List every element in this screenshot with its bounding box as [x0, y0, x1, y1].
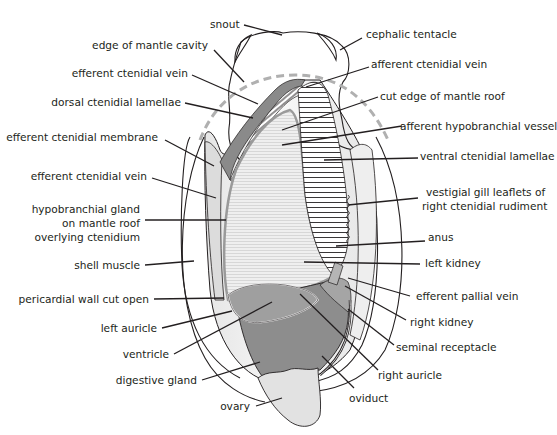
- label-efferent-ctenidial-vein-lower: efferent ctenidial vein: [31, 170, 147, 182]
- label-ventricle: ventricle: [123, 348, 169, 360]
- label-cephalic-tentacle: cephalic tentacle: [366, 28, 457, 40]
- label-afferent-ctenidial-vein: afferent ctenidial vein: [371, 58, 487, 70]
- leader-snout: [244, 25, 282, 35]
- label-afferent-hypobranchial-vessel: afferent hypobranchial vessel: [400, 120, 557, 132]
- label-ventral-ctenidial-lamellae: ventral ctenidial lamellae: [420, 150, 555, 162]
- label-dorsal-ctenidial-lamellae: dorsal ctenidial lamellae: [51, 96, 181, 108]
- label-left-auricle: left auricle: [101, 322, 157, 334]
- gastropod-anatomy-diagram: snout edge of mantle cavity efferent cte…: [0, 0, 557, 435]
- label-seminal-receptacle: seminal receptacle: [396, 341, 496, 353]
- label-shell-muscle: shell muscle: [74, 259, 140, 271]
- ovary-shape: [258, 368, 321, 426]
- right-cephalic-tentacle: [317, 33, 336, 60]
- label-pericardial-wall-cut-open: pericardial wall cut open: [19, 293, 149, 305]
- label-oviduct: oviduct: [349, 392, 388, 404]
- label-left-kidney: left kidney: [425, 257, 481, 269]
- label-edge-of-mantle-cavity: edge of mantle cavity: [92, 39, 208, 51]
- label-anus: anus: [428, 231, 453, 243]
- label-right-kidney: right kidney: [410, 316, 474, 328]
- left-cephalic-tentacle: [235, 35, 251, 62]
- leader-cephalic-tentacle: [340, 38, 362, 50]
- label-hypobranchial-gland-1: hypobranchial gland: [32, 203, 140, 215]
- label-efferent-ctenidial-membrane: efferent ctenidial membrane: [6, 131, 158, 143]
- leader-efferent-ctenidial-vein-upper: [192, 75, 258, 104]
- label-hypobranchial-gland-3: overlying ctenidium: [35, 231, 140, 243]
- label-efferent-ctenidial-vein-upper: efferent ctenidial vein: [72, 67, 188, 79]
- label-efferent-pallial-vein: efferent pallial vein: [416, 290, 519, 302]
- leader-shell-muscle: [145, 261, 194, 265]
- label-snout: snout: [210, 18, 240, 30]
- label-digestive-gland: digestive gland: [116, 374, 197, 386]
- label-ovary: ovary: [220, 400, 250, 412]
- label-vestigial-gill-leaflets-1: vestigial gill leaflets of: [426, 186, 545, 198]
- label-cut-edge-of-mantle-roof: cut edge of mantle roof: [380, 90, 505, 102]
- label-hypobranchial-gland-2: on mantle roof: [62, 217, 140, 229]
- label-right-auricle: right auricle: [378, 369, 442, 381]
- label-vestigial-gill-leaflets-2: right ctenidial rudiment: [422, 200, 547, 212]
- leader-dorsal-ctenidial-lamellae: [185, 103, 253, 118]
- anatomy: [181, 32, 402, 427]
